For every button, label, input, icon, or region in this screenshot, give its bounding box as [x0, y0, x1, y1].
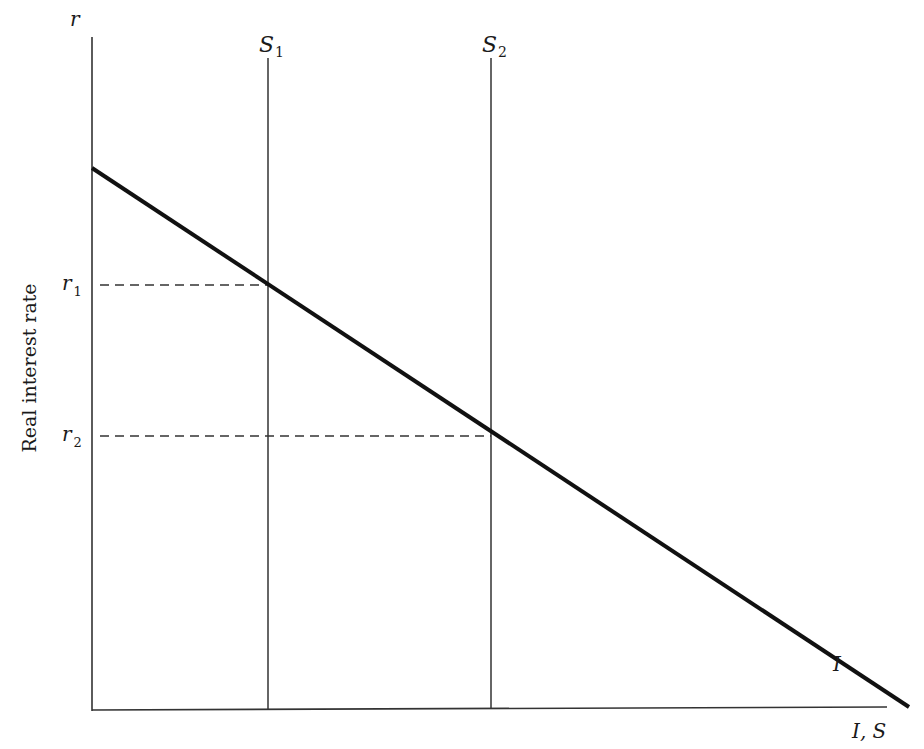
- y-axis-label: Real interest rate: [18, 283, 40, 452]
- r1-label: r1: [62, 271, 82, 299]
- x-axis: [92, 707, 887, 710]
- diagram-canvas: r S1 S2 r1 r2 I I, S Real interest rate: [0, 0, 924, 749]
- s2-label: S2: [482, 32, 507, 60]
- y-axis-symbol: r: [70, 7, 81, 31]
- investment-label: I: [832, 652, 842, 676]
- s1-label: S1: [259, 32, 284, 60]
- investment-curve: [92, 168, 909, 707]
- r2-label: r2: [62, 422, 82, 450]
- x-axis-label: I, S: [851, 719, 886, 743]
